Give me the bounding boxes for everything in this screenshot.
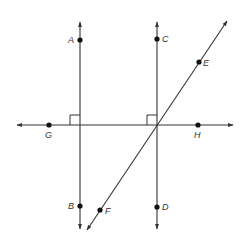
point-dot-icon [77,203,82,208]
point-label: D [162,202,169,212]
point-dot-icon [46,122,51,127]
right-angle-marker-icon [147,115,157,125]
right-angle-markers [70,115,157,125]
point-dot-icon [154,36,159,41]
point-dot-icon [97,207,102,212]
point-f: F [97,206,111,216]
point-label: H [194,130,201,140]
point-dot-icon [196,59,201,64]
point-label: E [203,58,210,68]
point-label: A [67,35,74,45]
right-angle-marker-icon [70,115,80,125]
point-dot-icon [195,122,200,127]
point-label: F [105,206,111,216]
geometry-diagram: ABCDEFGH [0,0,244,238]
point-label: C [162,34,169,44]
point-label: B [68,201,74,211]
point-dot-icon [77,37,82,42]
point-label: G [45,130,52,140]
point-e: E [196,58,210,68]
point-dot-icon [154,204,159,209]
